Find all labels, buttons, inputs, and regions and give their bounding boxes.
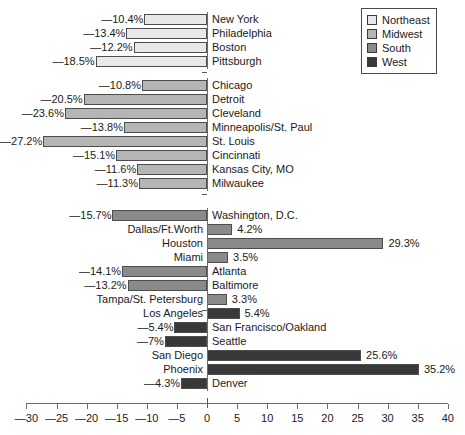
value-label: —15.7% bbox=[69, 208, 111, 222]
x-axis-tick bbox=[297, 404, 298, 409]
x-axis-tick bbox=[418, 404, 419, 409]
bar-row: Houston29.3% bbox=[0, 237, 465, 251]
x-axis-tick bbox=[207, 398, 208, 408]
x-axis-tick bbox=[57, 404, 58, 409]
bar-row: Detroit—20.5% bbox=[0, 93, 465, 107]
value-label: —27.2% bbox=[0, 134, 42, 148]
value-label: 29.3% bbox=[388, 236, 419, 250]
bar-row: Seattle—7% bbox=[0, 335, 465, 349]
bar bbox=[116, 150, 207, 161]
value-label: —10.4% bbox=[101, 12, 143, 26]
group-separator-tick bbox=[202, 194, 207, 195]
x-axis-tick bbox=[388, 404, 389, 409]
bar-row: Los Angeles5.4% bbox=[0, 307, 465, 321]
category-label: Philadelphia bbox=[212, 26, 272, 40]
value-label: —14.1% bbox=[79, 264, 121, 278]
value-label: 25.6% bbox=[366, 348, 397, 362]
bar-row: Milwaukee—11.3% bbox=[0, 177, 465, 191]
category-label: Chicago bbox=[212, 78, 252, 92]
bar-row: San Francisco/Oakland—5.4% bbox=[0, 321, 465, 335]
legend-item-label: Northeast bbox=[382, 15, 430, 26]
category-label: Cleveland bbox=[212, 106, 261, 120]
bar bbox=[84, 94, 207, 105]
category-label: San Diego bbox=[152, 348, 203, 362]
bar bbox=[181, 378, 207, 389]
x-axis-tick bbox=[177, 404, 178, 409]
bar bbox=[207, 252, 228, 263]
bar-row: Dallas/Ft.Worth4.2% bbox=[0, 223, 465, 237]
category-label: Dallas/Ft.Worth bbox=[127, 222, 203, 236]
value-label: —18.5% bbox=[52, 54, 94, 68]
bar-row: Miami3.5% bbox=[0, 251, 465, 265]
bar bbox=[65, 108, 207, 119]
bar bbox=[96, 56, 207, 67]
legend-item: Northeast bbox=[367, 13, 430, 27]
bar-row: Denver—4.3% bbox=[0, 377, 465, 391]
value-label: —13.8% bbox=[81, 120, 123, 134]
bar-row: Chicago—10.8% bbox=[0, 79, 465, 93]
x-axis-tick bbox=[358, 404, 359, 409]
category-label: Phoenix bbox=[163, 362, 203, 376]
x-axis-tick bbox=[117, 404, 118, 409]
legend-item: South bbox=[367, 41, 430, 55]
bar bbox=[207, 294, 227, 305]
value-label: —10.8% bbox=[99, 78, 141, 92]
zero-axis-line bbox=[207, 78, 208, 191]
category-label: Cincinnati bbox=[212, 148, 260, 162]
bar bbox=[207, 238, 383, 249]
category-label: Miami bbox=[174, 250, 203, 264]
category-label: Tampa/St. Petersburg bbox=[97, 292, 203, 306]
legend-item: West bbox=[367, 55, 430, 69]
value-label: 35.2% bbox=[424, 362, 455, 376]
category-label: Atlanta bbox=[212, 264, 246, 278]
value-label: —20.5% bbox=[40, 92, 82, 106]
x-axis-tick bbox=[327, 404, 328, 409]
category-label: Kansas City, MO bbox=[212, 162, 294, 176]
bar-row: Baltimore—13.2% bbox=[0, 279, 465, 293]
bar-row: Minneapolis/St. Paul—13.8% bbox=[0, 121, 465, 135]
value-label: 4.2% bbox=[237, 222, 262, 236]
bar-row: San Diego25.6% bbox=[0, 349, 465, 363]
category-label: Houston bbox=[162, 236, 203, 250]
value-label: —7% bbox=[137, 334, 164, 348]
zero-axis-line bbox=[207, 306, 208, 391]
bar bbox=[144, 14, 207, 25]
x-axis-tick bbox=[448, 404, 449, 409]
category-label: Denver bbox=[212, 376, 247, 390]
category-label: St. Louis bbox=[212, 134, 255, 148]
category-label: Pittsburgh bbox=[212, 54, 262, 68]
category-label: Los Angeles bbox=[143, 306, 203, 320]
bar bbox=[142, 80, 207, 91]
bar bbox=[165, 336, 207, 347]
chart-legend: NortheastMidwestSouthWest bbox=[361, 8, 437, 74]
value-label: —11.3% bbox=[97, 176, 138, 190]
category-label: Milwaukee bbox=[212, 176, 264, 190]
category-label: Seattle bbox=[212, 334, 246, 348]
zero-axis-line bbox=[207, 208, 208, 307]
category-label: Washington, D.C. bbox=[212, 208, 298, 222]
zero-axis-line bbox=[207, 12, 208, 69]
x-axis-tick bbox=[26, 404, 27, 409]
bar bbox=[112, 210, 207, 221]
value-label: —4.3% bbox=[144, 376, 180, 390]
category-label: Detroit bbox=[212, 92, 244, 106]
value-label: —13.4% bbox=[83, 26, 125, 40]
value-label: —13.2% bbox=[84, 278, 126, 292]
legend-swatch-icon bbox=[367, 43, 377, 53]
bar-row: Cincinnati—15.1% bbox=[0, 149, 465, 163]
bar-row: St. Louis—27.2% bbox=[0, 135, 465, 149]
bar bbox=[124, 122, 207, 133]
legend-item-label: South bbox=[382, 43, 411, 54]
x-axis-tick-label: 40 bbox=[428, 412, 465, 424]
bar-row: Cleveland—23.6% bbox=[0, 107, 465, 121]
bar bbox=[134, 42, 207, 53]
legend-item-label: Midwest bbox=[382, 29, 422, 40]
x-axis-tick bbox=[87, 404, 88, 409]
bar bbox=[126, 28, 207, 39]
category-label: Minneapolis/St. Paul bbox=[212, 120, 312, 134]
value-label: —12.2% bbox=[90, 40, 132, 54]
bar-row: Atlanta—14.1% bbox=[0, 265, 465, 279]
legend-swatch-icon bbox=[367, 15, 377, 25]
bar-row: Kansas City, MO—11.6% bbox=[0, 163, 465, 177]
bar-row: Phoenix35.2% bbox=[0, 363, 465, 377]
